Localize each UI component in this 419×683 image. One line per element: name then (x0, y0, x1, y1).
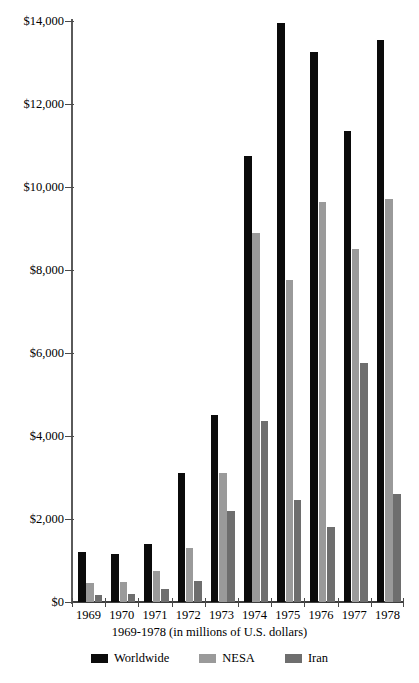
x-axis-tick (371, 598, 372, 607)
x-axis-tick (105, 598, 106, 607)
y-axis-tick-label: $12,000 (0, 97, 64, 112)
x-axis-title: 1969-1978 (in millions of U.S. dollars) (0, 625, 419, 640)
bar-worldwide-1973 (211, 415, 219, 602)
x-axis-tick (238, 598, 239, 607)
bar-iran-1975 (294, 500, 302, 602)
bar-nesa-1978 (385, 199, 393, 602)
bar-worldwide-1978 (377, 40, 385, 602)
bar-chart: U.S. Arms Sales Agreements, 1969-1978 $0… (0, 0, 419, 683)
x-axis-tick (271, 598, 272, 607)
bar-worldwide-1972 (178, 473, 186, 602)
bar-worldwide-1971 (144, 544, 152, 602)
bar-group (271, 21, 304, 602)
y-axis-tick-label: $2,000 (0, 512, 64, 527)
bar-group (138, 21, 171, 602)
x-axis-tick (338, 598, 339, 607)
bar-group (205, 21, 238, 602)
y-axis-tick-label: $4,000 (0, 429, 64, 444)
bar-group (172, 21, 205, 602)
legend-label: NESA (222, 651, 255, 666)
legend-swatch-icon (285, 654, 302, 663)
y-axis-tick-label: $6,000 (0, 346, 64, 361)
x-axis-tick-label: 1978 (364, 608, 410, 623)
x-axis-tick (205, 598, 206, 607)
legend-item-nesa[interactable]: NESA (199, 651, 255, 666)
bar-group (72, 21, 105, 602)
legend-swatch-icon (199, 654, 216, 663)
bar-group (105, 21, 138, 602)
bar-nesa-1976 (319, 202, 327, 602)
legend-label: Iran (308, 651, 328, 666)
bar-iran-1976 (327, 527, 335, 602)
bar-nesa-1973 (219, 473, 227, 602)
x-axis-tick (403, 598, 404, 607)
bar-worldwide-1970 (111, 554, 119, 602)
bar-group (371, 21, 404, 602)
y-axis-tick-label: $0 (0, 595, 64, 610)
x-axis-tick (138, 598, 139, 607)
plot-area: $0$2,000$4,000$6,000$8,000$10,000$12,000… (72, 21, 404, 602)
bar-nesa-1974 (252, 233, 260, 602)
legend-swatch-icon (91, 654, 108, 663)
x-axis-tick (172, 598, 173, 607)
bar-worldwide-1974 (244, 156, 252, 602)
bar-iran-1978 (393, 494, 401, 602)
y-axis-tick-label: $10,000 (0, 180, 64, 195)
chart-legend: WorldwideNESAIran (0, 651, 419, 666)
bar-iran-1977 (360, 363, 368, 602)
bar-group (304, 21, 337, 602)
legend-label: Worldwide (114, 651, 169, 666)
y-axis-tick-label: $8,000 (0, 263, 64, 278)
legend-item-worldwide[interactable]: Worldwide (91, 651, 169, 666)
y-axis-tick-label: $14,000 (0, 14, 64, 29)
bar-nesa-1972 (186, 548, 194, 602)
bar-group (338, 21, 371, 602)
bar-worldwide-1969 (78, 552, 86, 602)
bar-nesa-1977 (352, 249, 360, 602)
bar-iran-1974 (261, 421, 269, 602)
x-axis-tick (72, 598, 73, 607)
bar-worldwide-1975 (277, 23, 285, 602)
x-axis-tick (304, 598, 305, 607)
bar-group (238, 21, 271, 602)
bar-worldwide-1976 (310, 52, 318, 602)
legend-item-iran[interactable]: Iran (285, 651, 328, 666)
bar-worldwide-1977 (344, 131, 352, 602)
bar-iran-1973 (227, 511, 235, 602)
bar-nesa-1975 (286, 280, 294, 602)
